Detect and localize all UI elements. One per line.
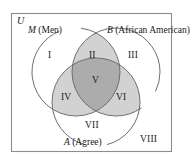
- set-name-A: (Agree): [72, 137, 102, 147]
- region-label-II: II: [89, 51, 96, 61]
- universe-label: U: [17, 16, 24, 26]
- region-label-VI: VI: [116, 93, 126, 103]
- set-name-B: (African American): [115, 25, 190, 35]
- region-label-I: I: [48, 51, 51, 61]
- set-label-B: B (African American): [107, 26, 190, 36]
- set-symbol-A: A: [64, 137, 70, 147]
- region-label-VII: VII: [85, 121, 99, 131]
- region-label-III: III: [128, 51, 138, 61]
- region-label-IV: IV: [61, 93, 71, 103]
- venn-diagram-figure: U M (Men) B (African American) A (Agree)…: [0, 0, 193, 164]
- region-label-VIII: VIII: [140, 135, 157, 145]
- set-symbol-M: M: [28, 25, 36, 35]
- set-symbol-B: B: [107, 25, 113, 35]
- set-label-M: M (Men): [28, 26, 62, 36]
- region-label-V: V: [92, 76, 99, 86]
- set-name-M: (Men): [38, 25, 62, 35]
- set-label-A: A (Agree): [64, 138, 102, 148]
